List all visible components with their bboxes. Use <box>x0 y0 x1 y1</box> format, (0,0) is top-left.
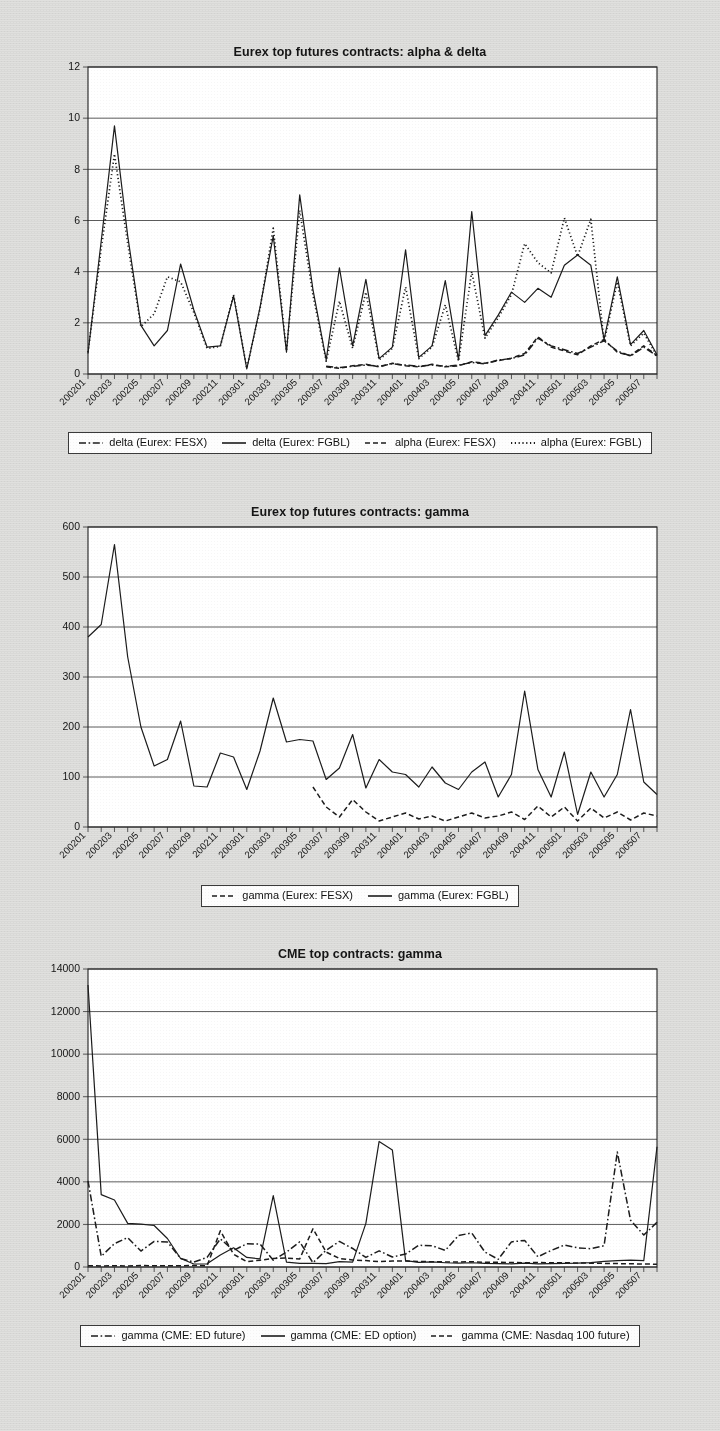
x-axis-tick-label: 200305 <box>269 1270 299 1300</box>
y-axis-tick-label: 600 <box>62 520 80 532</box>
legend-line-swatch <box>364 438 390 448</box>
y-axis-tick-label: 6000 <box>57 1133 81 1145</box>
x-axis-tick-label: 200405 <box>428 377 458 407</box>
x-axis-tick-label: 200403 <box>401 1270 431 1300</box>
x-axis-tick-label: 200203 <box>83 830 113 860</box>
x-axis-tick-label: 200403 <box>401 377 431 407</box>
y-axis-tick-label: 12000 <box>51 1005 80 1017</box>
plot-area: 0200040006000800010000120001400020020120… <box>0 961 720 1321</box>
legend-item[interactable]: gamma (CME: ED future) <box>90 1329 245 1342</box>
x-axis-tick-label: 200503 <box>560 830 590 860</box>
legend-item[interactable]: alpha (Eurex: FESX) <box>364 436 496 449</box>
chart-title: Eurex top futures contracts: alpha & del… <box>0 45 720 59</box>
x-axis-tick-label: 200503 <box>560 377 590 407</box>
y-axis-tick-label: 4 <box>74 265 80 277</box>
x-axis-tick-label: 200201 <box>57 377 87 407</box>
x-axis-tick-label: 200401 <box>375 830 405 860</box>
legend: gamma (Eurex: FESX)gamma (Eurex: FGBL) <box>0 885 720 907</box>
y-axis-tick-label: 300 <box>62 670 80 682</box>
legend-item[interactable]: alpha (Eurex: FGBL) <box>510 436 642 449</box>
x-axis-tick-label: 200411 <box>507 377 537 407</box>
x-axis-tick-label: 200301 <box>216 830 246 860</box>
x-axis-tick-label: 200505 <box>586 830 616 860</box>
x-axis-tick-label: 200409 <box>480 1270 510 1300</box>
x-axis-tick-label: 200411 <box>507 1270 537 1300</box>
x-axis-tick-label: 200203 <box>83 377 113 407</box>
legend-box: gamma (Eurex: FESX)gamma (Eurex: FGBL) <box>201 885 518 907</box>
x-axis-tick-label: 200209 <box>163 1270 193 1300</box>
x-axis-tick-label: 200303 <box>242 830 272 860</box>
x-axis-tick-label: 200305 <box>269 377 299 407</box>
x-axis-tick-label: 200505 <box>586 377 616 407</box>
x-axis-tick-label: 200311 <box>349 1270 379 1300</box>
x-axis-tick-label: 200401 <box>375 377 405 407</box>
x-axis-tick-label: 200507 <box>613 830 643 860</box>
legend-item[interactable]: gamma (CME: Nasdaq 100 future) <box>430 1329 629 1342</box>
legend-line-swatch <box>78 438 104 448</box>
x-axis-tick-label: 200405 <box>428 830 458 860</box>
legend-line-swatch <box>211 891 237 901</box>
legend-line-swatch <box>221 438 247 448</box>
x-axis-tick-label: 200407 <box>454 1270 484 1300</box>
x-axis-tick-label: 200205 <box>110 1270 140 1300</box>
x-axis-tick-label: 200211 <box>190 377 220 407</box>
x-axis-tick-label: 200401 <box>375 1270 405 1300</box>
legend: gamma (CME: ED future)gamma (CME: ED opt… <box>0 1325 720 1347</box>
legend-item[interactable]: gamma (CME: ED option) <box>260 1329 417 1342</box>
x-axis-tick-label: 200407 <box>454 830 484 860</box>
x-axis-tick-label: 200301 <box>216 1270 246 1300</box>
legend-label: delta (Eurex: FGBL) <box>252 436 350 449</box>
x-axis-tick-label: 200311 <box>349 377 379 407</box>
x-axis-tick-label: 200403 <box>401 830 431 860</box>
legend-line-swatch <box>510 438 536 448</box>
x-axis-tick-label: 200209 <box>163 830 193 860</box>
chart-cme-gamma: CME top contracts: gamma0200040006000800… <box>0 947 720 1347</box>
legend-box: delta (Eurex: FESX)delta (Eurex: FGBL)al… <box>68 432 651 454</box>
x-axis-tick-label: 200303 <box>242 1270 272 1300</box>
chart-title: Eurex top futures contracts: gamma <box>0 505 720 519</box>
y-axis-tick-label: 2 <box>74 316 80 328</box>
x-axis-tick-label: 200303 <box>242 377 272 407</box>
y-axis-tick-label: 100 <box>62 770 80 782</box>
y-axis-tick-label: 8000 <box>57 1090 81 1102</box>
x-axis-tick-label: 200305 <box>269 830 299 860</box>
x-axis-tick-label: 200203 <box>83 1270 113 1300</box>
legend-label: gamma (CME: ED option) <box>291 1329 417 1342</box>
x-axis-tick-label: 200205 <box>110 377 140 407</box>
legend-label: gamma (CME: ED future) <box>121 1329 245 1342</box>
chart-eurex-alpha-delta: Eurex top futures contracts: alpha & del… <box>0 45 720 454</box>
x-axis-tick-label: 200311 <box>349 830 379 860</box>
legend-label: alpha (Eurex: FESX) <box>395 436 496 449</box>
x-axis-tick-label: 200309 <box>322 830 352 860</box>
legend-label: gamma (Eurex: FGBL) <box>398 889 509 902</box>
chart-title: CME top contracts: gamma <box>0 947 720 961</box>
chart-eurex-gamma: Eurex top futures contracts: gamma010020… <box>0 505 720 907</box>
plot-background <box>88 969 657 1267</box>
x-axis-tick-label: 200501 <box>533 1270 563 1300</box>
y-axis-tick-label: 4000 <box>57 1175 81 1187</box>
y-axis-tick-label: 400 <box>62 620 80 632</box>
y-axis-tick-label: 8 <box>74 163 80 175</box>
x-axis-tick-label: 200307 <box>295 377 325 407</box>
legend-item[interactable]: delta (Eurex: FESX) <box>78 436 207 449</box>
y-axis-tick-label: 200 <box>62 720 80 732</box>
y-axis-tick-label: 2000 <box>57 1218 81 1230</box>
legend-line-swatch <box>430 1331 456 1341</box>
legend-item[interactable]: gamma (Eurex: FESX) <box>211 889 353 902</box>
x-axis-tick-label: 200207 <box>136 377 166 407</box>
legend-label: gamma (CME: Nasdaq 100 future) <box>461 1329 629 1342</box>
x-axis-tick-label: 200409 <box>480 830 510 860</box>
x-axis-tick-label: 200501 <box>533 377 563 407</box>
x-axis-tick-label: 200307 <box>295 830 325 860</box>
legend-item[interactable]: delta (Eurex: FGBL) <box>221 436 350 449</box>
x-axis-tick-label: 200201 <box>57 830 87 860</box>
y-axis-tick-label: 6 <box>74 214 80 226</box>
x-axis-tick-label: 200307 <box>295 1270 325 1300</box>
x-axis-tick-label: 200409 <box>480 377 510 407</box>
x-axis-tick-label: 200207 <box>136 1270 166 1300</box>
x-axis-tick-label: 200501 <box>533 830 563 860</box>
legend-label: alpha (Eurex: FGBL) <box>541 436 642 449</box>
legend-item[interactable]: gamma (Eurex: FGBL) <box>367 889 509 902</box>
y-axis-tick-label: 10000 <box>51 1047 80 1059</box>
x-axis-tick-label: 200207 <box>136 830 166 860</box>
